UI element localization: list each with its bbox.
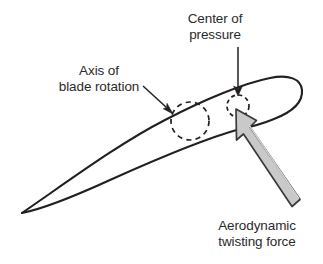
- label-center-of-pressure-line1: Center of: [163, 11, 267, 27]
- label-aerodynamic-twisting-force-line1: Aerodynamic: [194, 218, 320, 234]
- label-center-of-pressure: Center of pressure: [163, 11, 267, 42]
- center-of-pressure-leader: [234, 47, 243, 96]
- aerodynamic-twisting-force-arrow: [236, 109, 300, 207]
- label-center-of-pressure-line2: pressure: [163, 27, 267, 43]
- label-aerodynamic-twisting-force: Aerodynamic twisting force: [194, 218, 320, 249]
- label-axis-of-blade-rotation-line1: Axis of: [37, 63, 161, 79]
- label-axis-of-blade-rotation-line2: blade rotation: [37, 79, 161, 95]
- airfoil-lower-surface: [22, 129, 240, 213]
- label-axis-of-blade-rotation: Axis of blade rotation: [37, 63, 161, 94]
- airfoil-diagram: Center of pressure Axis of blade rotatio…: [0, 0, 323, 264]
- label-aerodynamic-twisting-force-line2: twisting force: [194, 234, 320, 250]
